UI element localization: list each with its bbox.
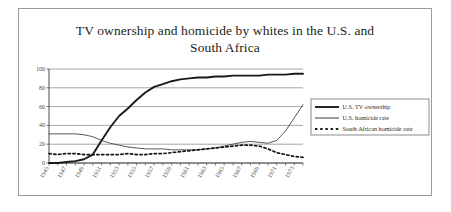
svg-text:1957: 1957 [144,166,155,179]
svg-text:1963: 1963 [196,166,207,179]
svg-text:1967: 1967 [231,166,242,179]
chart-plot: 020406080100 194519471949195119531955195… [19,9,433,197]
svg-text:1959: 1959 [161,166,172,179]
svg-text:1969: 1969 [249,166,260,179]
y-axis: 020406080100 [36,66,49,166]
plot-background [49,69,303,163]
svg-text:1953: 1953 [109,166,120,179]
svg-text:1971: 1971 [266,166,277,179]
svg-text:1945: 1945 [39,166,50,179]
chart-legend: U.S. TV ownershipU.S. homicide rateSouth… [311,99,429,135]
svg-text:South African homicide rate: South African homicide rate [343,125,413,132]
svg-text:40: 40 [39,122,45,128]
svg-text:80: 80 [39,85,45,91]
svg-text:1947: 1947 [56,166,67,179]
svg-text:100: 100 [36,66,45,72]
x-axis: 1945194719491951195319551957195919611963… [39,163,303,179]
svg-text:1949: 1949 [74,166,85,179]
svg-text:1955: 1955 [126,166,137,179]
svg-text:20: 20 [39,141,45,147]
figure-frame: TV ownership and homicide by whites in t… [18,8,432,196]
svg-text:U.S. TV ownership: U.S. TV ownership [343,103,391,110]
svg-text:0: 0 [42,160,45,166]
svg-text:1961: 1961 [179,166,190,179]
svg-text:U.S. homicide rate: U.S. homicide rate [343,114,390,121]
svg-text:1965: 1965 [214,166,225,179]
svg-text:1973: 1973 [284,166,295,179]
svg-text:1951: 1951 [91,166,102,179]
svg-text:60: 60 [39,104,45,110]
